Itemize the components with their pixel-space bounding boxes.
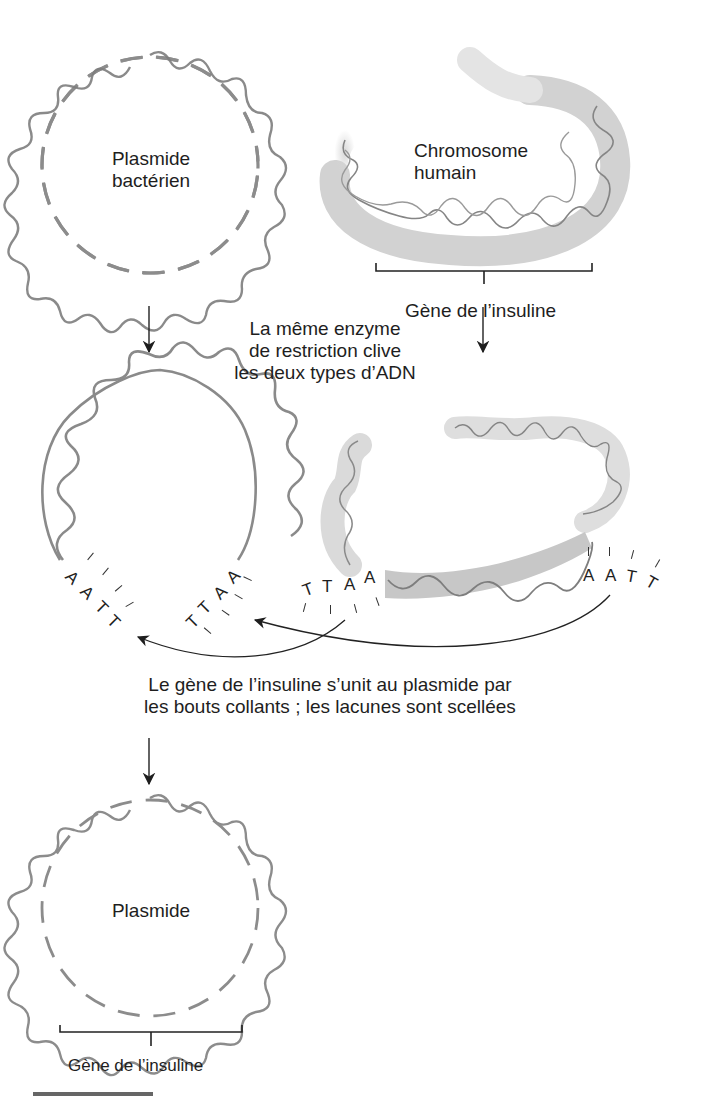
label-gene-bottom: Gène de l’insuline [68,1055,203,1077]
label-plasmid-recombinant: Plasmide [95,900,207,922]
label-chromosome-human: Chromosome humain [414,140,528,184]
arrow-join-left [138,620,345,657]
caption-restriction-enzyme: La même enzyme de restriction clive les … [205,318,445,384]
label-plasmid-bacterial: Plasmide bactérien [95,148,207,192]
plasmid-recombinant [4,795,286,1075]
footer-rule [33,1092,153,1096]
chromosome-cut [333,422,622,601]
caption-join: Le gène de l’insuline s’unit au plasmide… [100,674,560,718]
gene-bracket-bottom [60,1025,242,1046]
arrow-join-right [255,595,610,646]
